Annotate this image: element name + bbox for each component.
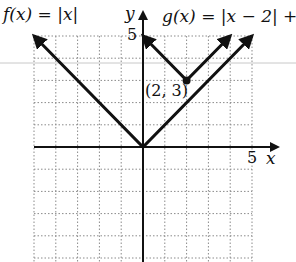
x-tick-label: 5 <box>247 150 257 166</box>
y-tick-label: 5 <box>127 27 137 43</box>
y-axis-label: y <box>125 5 135 22</box>
plot-svg <box>0 0 296 262</box>
f-function-label: f(x) = |x| <box>3 6 78 23</box>
x-axis-label: x <box>266 150 276 167</box>
g-function-label: g(x) = |x − 2| + 3 <box>162 8 296 25</box>
vertex-point-label: (2, 3) <box>145 83 188 99</box>
chart-area: f(x) = |x| g(x) = |x − 2| + 3 y 5 x 5 (2… <box>0 0 296 262</box>
